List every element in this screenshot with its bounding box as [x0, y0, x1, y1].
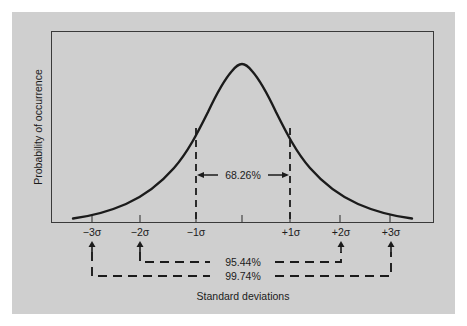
bell-curve-path — [73, 64, 412, 219]
plot-frame — [52, 32, 434, 223]
one-sigma-percent-label: 68.26% — [225, 169, 261, 181]
tick-label-minus-2-sigma: −2σ — [131, 226, 150, 238]
normal-distribution-chart: 68.26% −3σ −2σ −1σ +1σ +2σ +3σ 95.44% — [0, 0, 467, 326]
tick-label-plus-2-sigma: +2σ — [332, 226, 351, 238]
tick-label-minus-3-sigma: −3σ — [83, 226, 102, 238]
x-axis-ticks — [92, 213, 390, 222]
two-sigma-percent-label: 95.44% — [225, 256, 261, 268]
interval-up-arrows — [89, 241, 395, 247]
tick-label-plus-1-sigma: +1σ — [282, 226, 301, 238]
figure-root: 68.26% −3σ −2σ −1σ +1σ +2σ +3σ 95.44% — [0, 0, 467, 326]
tick-label-plus-3-sigma: +3σ — [382, 226, 401, 238]
x-axis-title: Standard deviations — [197, 290, 290, 302]
three-sigma-percent-label: 99.74% — [225, 270, 261, 282]
tick-label-minus-1-sigma: −1σ — [187, 226, 206, 238]
y-axis-title: Probability of occurrence — [32, 69, 44, 185]
interval-arrow-stems — [92, 245, 391, 252]
